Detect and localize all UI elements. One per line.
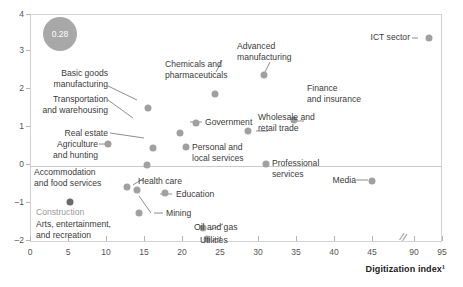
label-personal-local-services: Personal and local services bbox=[192, 142, 244, 163]
y-tick-label-4: 4 bbox=[0, 10, 24, 19]
x-tick-label-10: 10 bbox=[94, 248, 118, 257]
y-tick-label-1: 1 bbox=[0, 122, 24, 131]
label-government: Government bbox=[205, 117, 252, 128]
point-transportation-warehousing[interactable] bbox=[177, 130, 184, 137]
y-tick-mark-0 bbox=[26, 164, 30, 165]
y-tick-mark-4 bbox=[26, 14, 30, 15]
x-tick-mark-15 bbox=[144, 236, 145, 241]
label-accommodation-food-services: Accommodation and food services bbox=[34, 167, 101, 188]
point-government[interactable] bbox=[193, 120, 200, 127]
x-tick-label-45: 45 bbox=[360, 248, 384, 257]
y-tick-label-0: 0 bbox=[0, 160, 24, 169]
x-tick-label-40: 40 bbox=[322, 248, 346, 257]
x-tick-label-25: 25 bbox=[208, 248, 232, 257]
bubble-value: 0.28 bbox=[52, 29, 69, 39]
point-ict-sector[interactable] bbox=[426, 35, 433, 42]
point-arts-entertainment-recreation[interactable] bbox=[134, 187, 141, 194]
y-tick-label-2: 2 bbox=[0, 84, 24, 93]
x-tick-label-20: 20 bbox=[170, 248, 194, 257]
x-tick-mark-95 bbox=[442, 236, 443, 241]
x-tick-label-95: 95 bbox=[430, 248, 454, 257]
point-professional-services[interactable] bbox=[263, 161, 270, 168]
x-tick-label-15: 15 bbox=[132, 248, 156, 257]
point-personal-local-services[interactable] bbox=[183, 144, 190, 151]
x-tick-mark-0 bbox=[30, 236, 31, 241]
label-ict-sector: ICT sector bbox=[330, 32, 410, 43]
x-tick-mark-45 bbox=[372, 236, 373, 241]
label-real-estate: Real estate bbox=[46, 128, 108, 139]
point-accommodation-food-services[interactable] bbox=[124, 184, 131, 191]
point-advanced-manufacturing[interactable] bbox=[261, 72, 268, 79]
x-tick-mark-20 bbox=[182, 236, 183, 241]
x-axis-title: Digitization index¹ bbox=[366, 264, 445, 274]
point-health-care[interactable] bbox=[144, 162, 151, 169]
point-media[interactable] bbox=[369, 178, 376, 185]
label-education: Education bbox=[176, 189, 214, 200]
bubble-annotation: 0.28 bbox=[43, 17, 77, 51]
label-arts-entertainment-recreation: Arts, entertainment, and recreation bbox=[36, 219, 111, 240]
y-tick-label-3: 3 bbox=[0, 46, 24, 55]
x-tick-label-35: 35 bbox=[284, 248, 308, 257]
x-tick-mark-40 bbox=[334, 236, 335, 241]
y-tick-label-neg2: –2 bbox=[0, 236, 24, 245]
x-tick-label-0: 0 bbox=[18, 248, 42, 257]
y-tick-label-neg1: –1 bbox=[0, 198, 24, 207]
label-construction: Construction bbox=[36, 207, 84, 218]
y-tick-mark-1 bbox=[26, 126, 30, 127]
point-mining[interactable] bbox=[136, 210, 143, 217]
point-basic-goods-manufacturing[interactable] bbox=[145, 105, 152, 112]
x-tick-label-30: 30 bbox=[246, 248, 270, 257]
y-tick-mark-3 bbox=[26, 50, 30, 51]
label-professional-services: Professional services bbox=[272, 158, 319, 179]
x-tick-mark-30 bbox=[258, 236, 259, 241]
label-utilities: Utilities bbox=[200, 235, 228, 246]
label-basic-goods-manufacturing: Basic goods manufacturing bbox=[28, 68, 108, 89]
label-mining: Mining bbox=[166, 208, 191, 219]
label-finance-insurance: Finance and insurance bbox=[307, 83, 361, 104]
point-construction[interactable] bbox=[67, 199, 74, 206]
label-oil-and-gas: Oil and gas bbox=[194, 222, 237, 233]
label-transportation-warehousing: Transportation and warehousing bbox=[18, 94, 108, 115]
label-agriculture-hunting: Agriculture and hunting bbox=[16, 139, 98, 160]
point-agriculture-hunting[interactable] bbox=[105, 141, 112, 148]
label-chemicals-pharmaceuticals: Chemicals and pharmaceuticals bbox=[165, 59, 228, 80]
label-health-care: Health care bbox=[138, 176, 182, 187]
x-tick-mark-35 bbox=[296, 236, 297, 241]
point-real-estate[interactable] bbox=[150, 145, 157, 152]
point-education[interactable] bbox=[162, 190, 169, 197]
y-tick-mark-neg1 bbox=[26, 202, 30, 203]
point-wholesale-retail-trade[interactable] bbox=[245, 128, 252, 135]
x-tick-mark-90 bbox=[414, 236, 415, 241]
scatter-chart: 4 3 2 1 0 –1 –2 0 5 10 15 20 25 30 35 40 bbox=[0, 0, 463, 287]
x-tick-label-90: 90 bbox=[402, 248, 426, 257]
label-wholesale-retail-trade: Wholesale and retail trade bbox=[258, 112, 315, 133]
x-tick-label-5: 5 bbox=[56, 248, 80, 257]
label-advanced-manufacturing: Advanced manufacturing bbox=[237, 41, 291, 62]
point-chemicals-pharmaceuticals[interactable] bbox=[212, 91, 219, 98]
label-media: Media bbox=[318, 175, 356, 186]
